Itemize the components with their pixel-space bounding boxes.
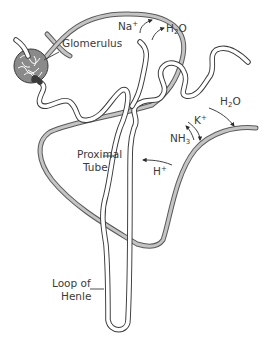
h2o-top-label: H2O	[166, 22, 187, 36]
nephron-diagram: Glomerulus Proximal Tube Loop of Henle N…	[0, 0, 265, 345]
h2o-right-arrow	[209, 108, 234, 126]
glomerulus-label: Glomerulus	[62, 37, 122, 49]
glomerulus	[14, 40, 48, 83]
loop-of-henle-label-line2: Henle	[61, 290, 91, 302]
na-label: Na+	[118, 20, 138, 32]
na-arrow	[140, 20, 152, 33]
nh3-label: NH3	[170, 132, 190, 146]
loop-of-henle-label-line1: Loop of	[52, 277, 91, 289]
h-label: H+	[153, 165, 167, 177]
proximal-tube-label-line1: Proximal	[77, 148, 122, 160]
k-label: K+	[194, 114, 207, 126]
proximal-tube-label-line2: Tube	[82, 161, 108, 173]
h2o-right-label: H2O	[220, 95, 241, 109]
h2o-top-arrow	[152, 28, 164, 40]
